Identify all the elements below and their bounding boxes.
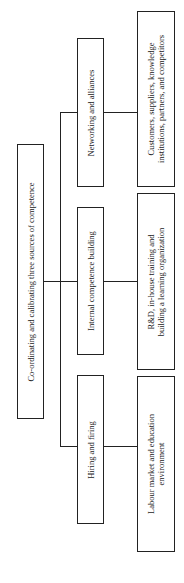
detail-line-2: institutions, partners, and competitors (156, 35, 166, 163)
branch-node-internal: Internal competence building (77, 207, 104, 355)
branch-label-internal: Internal competence building (86, 231, 96, 331)
detail-line-1: R&D, in-house training and (146, 227, 156, 336)
detail-label-internal: R&D, in-house training and building a le… (146, 227, 166, 336)
branch-node-hiring: Hiring and firing (77, 375, 104, 524)
detail-node-hiring: Labour market and education environment (137, 376, 175, 552)
detail-label-hiring: Labour market and education environment (146, 414, 166, 514)
detail-line-2: environment (156, 414, 166, 514)
connector-networking (60, 112, 77, 113)
connector-networking-detail (103, 112, 137, 113)
connector-hiring (60, 446, 77, 447)
connector-internal (60, 281, 77, 282)
connector-hiring-detail (103, 446, 137, 447)
detail-label-networking: Customers, suppliers, knowledge institut… (146, 35, 166, 163)
detail-line-1: Customers, suppliers, knowledge (146, 35, 156, 163)
branch-label-hiring: Hiring and firing (86, 421, 96, 479)
connector-internal-detail (103, 281, 137, 282)
branch-node-networking: Networking and alliances (77, 38, 104, 187)
connector-trunk (60, 112, 61, 447)
root-node: Co-ordinating and calibrating three sour… (17, 144, 44, 419)
detail-line-2: building a learning organization (156, 227, 166, 336)
root-label: Co-ordinating and calibrating three sour… (26, 182, 36, 381)
branch-label-networking: Networking and alliances (86, 69, 96, 156)
detail-node-networking: Customers, suppliers, knowledge institut… (137, 11, 175, 187)
detail-node-internal: R&D, in-house training and building a le… (137, 193, 175, 370)
detail-line-1: Labour market and education (146, 414, 156, 514)
connector-root (43, 281, 60, 282)
